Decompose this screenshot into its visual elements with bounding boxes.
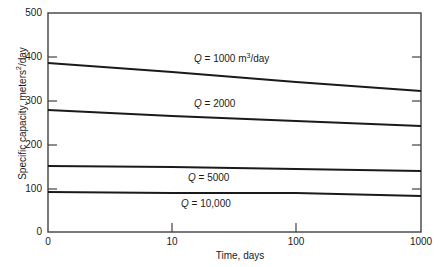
- series-annotation-q10000-symbol: Q: [181, 198, 189, 209]
- chart-figure: 500 400 300 200 100 0 0 10 100 1000 Spec…: [0, 0, 446, 267]
- series-annotation-q1000: Q = 1000 m3/day: [194, 54, 269, 64]
- series-annotation-q10000-value: = 10,000: [189, 198, 231, 209]
- series-annotation-q5000: Q = 5000: [188, 173, 229, 183]
- series-annotation-q1000-symbol: Q: [194, 53, 202, 64]
- plot-frame: [48, 13, 421, 232]
- y-axis-title-suffix: /day: [17, 47, 28, 66]
- series-annotation-q5000-value: = 5000: [196, 172, 230, 183]
- series-annotation-q10000: Q = 10,000: [181, 199, 231, 209]
- series-annotation-q2000: Q = 2000: [194, 99, 235, 109]
- y-tick-label-0: 0: [12, 227, 42, 237]
- y-tick-label-500: 500: [12, 8, 42, 18]
- y-axis-title-text: Specific capacity, meters: [17, 70, 28, 180]
- series-annotation-q2000-value: = 2000: [202, 98, 236, 109]
- series-annotation-q1000-units: /day: [250, 53, 269, 64]
- series-annotation-q1000-value: = 1000 m: [202, 53, 247, 64]
- series-annotation-q5000-symbol: Q: [188, 172, 196, 183]
- x-tick-label-0: 0: [33, 237, 63, 247]
- x-axis-title: Time, days: [180, 250, 300, 261]
- chart-plot-area: [0, 0, 446, 267]
- x-tick-label-1000: 1000: [404, 237, 438, 247]
- x-tick-label-10: 10: [157, 237, 187, 247]
- y-axis-title-superscript: 2: [15, 66, 22, 70]
- series-annotation-q2000-symbol: Q: [194, 98, 202, 109]
- x-tick-label-100: 100: [281, 237, 311, 247]
- y-axis-title: Specific capacity, meters2/day: [17, 24, 28, 204]
